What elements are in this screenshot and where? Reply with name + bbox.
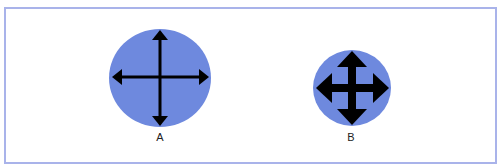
figure-b — [313, 50, 391, 126]
move-cursor-bold-arrows-icon — [313, 50, 391, 126]
move-cursor-thin-arrows-icon — [109, 29, 211, 127]
figure-b-label: B — [341, 131, 361, 143]
figure-a — [109, 29, 211, 127]
diagram-frame — [4, 7, 497, 164]
figure-a-label: A — [150, 131, 170, 143]
